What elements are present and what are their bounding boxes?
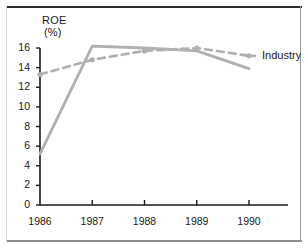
chart-figure: ROE (%) Industry 0246810121416 198619871…	[0, 0, 308, 252]
y-tick-label: 2	[10, 178, 30, 190]
y-tick-label: 14	[10, 61, 30, 73]
axes-group	[36, 48, 288, 205]
data-point-marker	[142, 48, 147, 53]
x-tick-label: 1989	[177, 215, 217, 227]
y-tick-label: 10	[10, 100, 30, 112]
series-group	[37, 45, 251, 154]
legend-label-industry: Industry	[262, 49, 301, 61]
y-tick-label: 6	[10, 139, 30, 151]
data-point-marker	[37, 72, 42, 77]
y-tick-label: 4	[10, 159, 30, 171]
x-tick-label: 1990	[229, 215, 269, 227]
series-line-company	[40, 46, 249, 154]
y-tick-label: 12	[10, 80, 30, 92]
x-tick-label: 1986	[20, 215, 60, 227]
y-tick-label: 0	[10, 198, 30, 210]
y-tick-label: 8	[10, 120, 30, 132]
x-tick-label: 1988	[125, 215, 165, 227]
x-tick-label: 1987	[72, 215, 112, 227]
y-tick-label: 16	[10, 41, 30, 53]
data-point-marker	[194, 45, 199, 50]
data-point-marker	[90, 57, 95, 62]
